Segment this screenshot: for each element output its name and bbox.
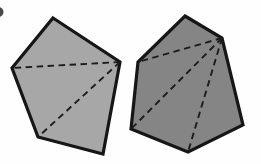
polygon-diagram-canvas [0, 0, 261, 164]
triangulated-polygons-figure [0, 0, 261, 164]
